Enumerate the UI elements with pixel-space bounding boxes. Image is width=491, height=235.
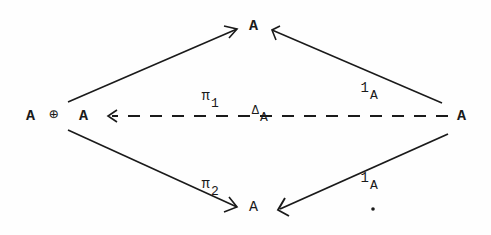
label-pi1-sub: 1 [211, 96, 219, 111]
label-delta-sub: A [260, 110, 268, 125]
node-left-a1: A [26, 109, 35, 124]
node-bottom-a: A [249, 200, 258, 215]
label-pi2-main: π [202, 176, 210, 192]
oplus-symbol: ⊕ [49, 108, 58, 123]
label-identity-bottom-main: 1 [361, 170, 369, 186]
arrow-diagonal-dashed [108, 110, 448, 122]
node-top-a: A [249, 19, 258, 34]
label-pi1-main: π [202, 88, 210, 104]
label-pi2-sub: 2 [211, 184, 219, 199]
label-identity-top-sub: A [370, 88, 378, 103]
label-pi2: π2 [168, 163, 218, 205]
dot-mark [371, 207, 375, 211]
node-left-a2: A [79, 109, 88, 124]
label-delta: ΔA [223, 92, 267, 129]
label-identity-bottom-sub: A [370, 178, 378, 193]
label-pi1: π1 [168, 75, 218, 117]
label-identity-top-main: 1 [361, 80, 369, 96]
label-identity-bottom: 1A [327, 157, 377, 199]
label-identity-top: 1A [327, 67, 377, 109]
label-delta-main: Δ [252, 104, 259, 118]
node-right-a: A [457, 109, 466, 124]
diagram-canvas: A A ⊕ A A A π1 π2 1A 1A ΔA [0, 0, 491, 235]
